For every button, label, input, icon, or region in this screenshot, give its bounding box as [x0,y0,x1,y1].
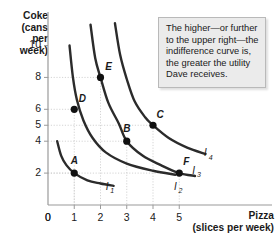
x-tick-label-2: 2 [98,211,104,223]
y-tick-label-5: 5 [35,118,41,130]
x-tick-label-4: 4 [150,211,156,223]
x-tick-label-3: 3 [124,211,130,223]
curve-label-text-I3: I [192,165,195,176]
y-tick-label-8: 8 [35,70,41,82]
y-tick-label-0: 0 [45,211,51,223]
curve-labels-layer: I1I2I3I4 [106,147,213,194]
curve-label-I1: I1 [106,181,115,194]
curve-label-sub-I4: 4 [209,154,213,161]
data-point-E [97,74,104,81]
y-tick-label-10: 10 [29,38,41,50]
curve-label-text-I2: I [174,181,177,192]
y-tick-label-2: 2 [35,166,41,178]
x-axis-title-main: Pizza [249,210,274,221]
data-point-label-B: B [123,123,130,134]
x-axis-title-sub: (slices per week) [192,222,274,233]
curve-label-sub-I2: 2 [178,187,183,194]
data-point-label-A: A [70,155,78,166]
data-point-label-D: D [79,93,86,104]
callout-box: The higher—or further to the upper right… [158,17,266,88]
data-point-label-E: E [105,61,112,72]
curve-label-sub-I3: 3 [197,171,201,178]
x-axis-title: Pizza (slices per week) [160,210,274,234]
x-tick-label-1: 1 [71,211,77,223]
curve-I1 [57,141,113,186]
curve-label-I4: I4 [204,147,213,160]
curve-label-text-I4: I [204,147,207,158]
curve-label-I2: I2 [174,181,183,194]
data-point-label-C: C [156,109,164,120]
data-point-label-F: F [183,156,190,167]
data-point-D [71,106,78,113]
indifference-curve-figure: Coke (cans per week) ABCDEF 012345024568… [0,0,277,247]
y-tick-label-4: 4 [35,134,41,146]
y-tick-label-6: 6 [35,102,41,114]
data-point-B [123,138,130,145]
curve-label-sub-I1: 1 [110,187,114,194]
curve-label-text-I1: I [106,181,109,192]
data-point-A [71,170,78,177]
callout-text: The higher—or further to the upper right… [166,23,259,79]
data-point-F [176,170,183,177]
data-point-C [149,122,156,129]
